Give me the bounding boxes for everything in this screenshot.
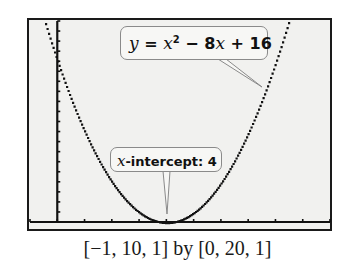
eq-x2: x bbox=[215, 33, 225, 53]
equation-callout: y = x2 − 8x + 16 bbox=[120, 26, 268, 60]
eq-exponent: 2 bbox=[173, 34, 180, 45]
eq-const: + 16 bbox=[225, 34, 272, 53]
equation-pointer bbox=[218, 59, 262, 87]
eq-term: − 8 bbox=[180, 34, 216, 53]
window-caption: [−1, 10, 1] by [0, 20, 1] bbox=[0, 237, 355, 260]
eq-y: y bbox=[129, 33, 139, 53]
intercept-pointer bbox=[163, 171, 170, 214]
eq-equals: = bbox=[139, 34, 164, 53]
x-intercept-callout: x-intercept: 4 bbox=[110, 147, 222, 172]
eq-x: x bbox=[163, 33, 173, 53]
xi-label: -intercept: 4 bbox=[125, 154, 216, 169]
